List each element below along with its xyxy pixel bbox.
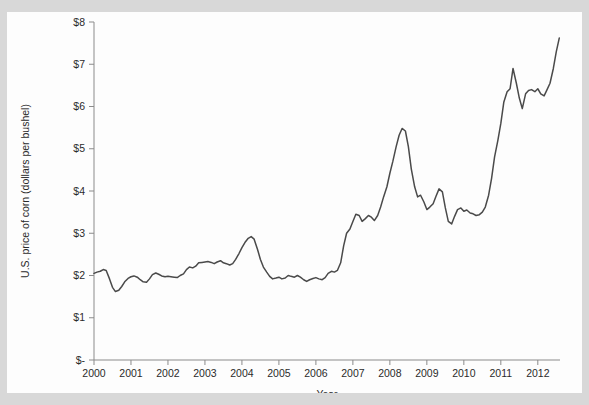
y-tick-label: $6 bbox=[73, 100, 85, 112]
x-tick-label: 2000 bbox=[82, 367, 106, 379]
y-axis-title: U.S. price of corn (dollars per bushel) bbox=[19, 104, 31, 278]
x-tick-label: 2010 bbox=[452, 367, 476, 379]
x-tick-label: 2004 bbox=[230, 367, 254, 379]
y-axis: $8$7$6$5$4$3$2$1$- bbox=[73, 16, 94, 366]
corn-price-series-line bbox=[94, 38, 559, 292]
x-tick-label: 2003 bbox=[193, 367, 217, 379]
y-tick-label: $5 bbox=[73, 142, 85, 154]
x-tick-label: 2007 bbox=[341, 367, 365, 379]
page-canvas: $8$7$6$5$4$3$2$1$- 200020012002200320042… bbox=[7, 12, 582, 393]
x-tick-label: 2011 bbox=[490, 367, 513, 379]
x-tick-label: 2012 bbox=[526, 367, 550, 379]
y-axis-ticks: $8$7$6$5$4$3$2$1$- bbox=[73, 16, 94, 366]
chart-svg: $8$7$6$5$4$3$2$1$- 200020012002200320042… bbox=[7, 12, 582, 393]
y-tick-label: $1 bbox=[73, 311, 85, 323]
y-tick-label: $4 bbox=[73, 185, 85, 197]
x-axis: 2000200120022003200420052006200720082009… bbox=[82, 360, 560, 379]
x-tick-label: 2009 bbox=[415, 367, 439, 379]
y-tick-label: $7 bbox=[73, 58, 85, 70]
y-tick-label: $- bbox=[76, 354, 86, 366]
x-axis-ticks: 2000200120022003200420052006200720082009… bbox=[82, 360, 549, 379]
x-axis-title: Year bbox=[316, 388, 338, 393]
x-tick-label: 2008 bbox=[378, 367, 402, 379]
x-tick-label: 2001 bbox=[119, 367, 143, 379]
y-tick-label: $8 bbox=[73, 16, 85, 28]
x-tick-label: 2006 bbox=[304, 367, 328, 379]
y-tick-label: $2 bbox=[73, 269, 85, 281]
y-tick-label: $3 bbox=[73, 227, 85, 239]
x-tick-label: 2002 bbox=[156, 367, 180, 379]
x-tick-label: 2005 bbox=[267, 367, 291, 379]
corn-price-line-chart: $8$7$6$5$4$3$2$1$- 200020012002200320042… bbox=[7, 12, 582, 393]
